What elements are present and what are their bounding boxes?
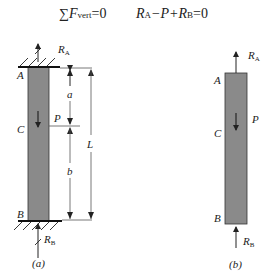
caption-a: (a): [32, 257, 45, 270]
label-ra-a: RA: [57, 43, 70, 57]
label-b-point: B: [17, 208, 24, 220]
label-c-point: C: [17, 123, 25, 135]
label-dim-b: b: [67, 165, 73, 177]
label-p-b: P: [251, 113, 259, 125]
bar-diagrams: RA A C P B a b L RB (a) RA A P C B RB (b…: [0, 0, 267, 273]
label-rb-b: RB: [242, 235, 255, 249]
label-p-a: P: [53, 112, 61, 124]
caption-b: (b): [229, 258, 242, 271]
label-a-point-b: A: [213, 74, 221, 86]
bottom-hatch-icon: [14, 222, 58, 230]
figure-a: RA A C P B a b L RB (a): [14, 43, 94, 270]
bar-a: [28, 67, 49, 221]
bar-b: [225, 73, 247, 224]
label-dim-a: a: [67, 88, 73, 100]
label-b-point-b: B: [214, 212, 221, 224]
label-a-point: A: [16, 69, 24, 81]
label-c-point-b: C: [214, 127, 222, 139]
label-ra-b: RA: [247, 49, 260, 63]
label-rb-a: RB: [43, 233, 56, 247]
label-dim-L: L: [86, 138, 93, 150]
figure-b: RA A P C B RB (b): [213, 49, 260, 271]
